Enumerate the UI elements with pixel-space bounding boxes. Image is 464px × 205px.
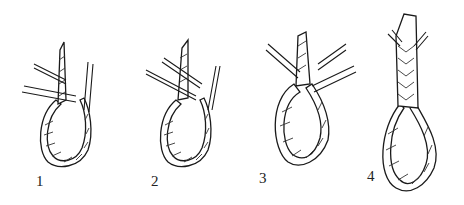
step-label-2: 2 (151, 173, 159, 190)
step-2-drawing (146, 40, 220, 166)
step-label-3: 3 (259, 170, 267, 187)
step-1-drawing (22, 42, 93, 166)
step-label-4: 4 (367, 168, 375, 185)
rope-illustration (0, 0, 464, 205)
step-3-drawing (266, 32, 356, 165)
step-4-drawing (383, 14, 436, 191)
step-label-1: 1 (36, 173, 44, 190)
